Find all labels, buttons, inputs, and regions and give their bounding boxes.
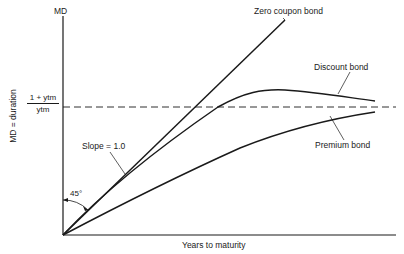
slope-leader: [110, 152, 125, 174]
angle-annotation: 45°: [70, 189, 82, 199]
asymptote-denominator: ytm: [27, 104, 59, 114]
discount-leader: [338, 72, 350, 94]
discount-bond-curve: [63, 90, 375, 235]
zero-coupon-leader: [283, 18, 285, 20]
slope-annotation: Slope = 1.0: [82, 141, 125, 151]
arc-arrowhead-right: [83, 206, 88, 211]
asymptote-fraction-label: 1 + ytm ytm: [27, 93, 59, 114]
duration-vs-maturity-diagram: MD MD = duration 1 + ytm ytm Years to ma…: [0, 0, 404, 254]
y-axis-top-label: MD: [54, 6, 67, 16]
arc-arrowhead-left: [63, 198, 68, 202]
premium-bond-curve: [63, 112, 375, 235]
asymptote-numerator: 1 + ytm: [27, 93, 59, 104]
premium-bond-label: Premium bond: [315, 140, 370, 150]
zero-coupon-bond-label: Zero coupon bond: [254, 6, 323, 16]
discount-bond-label: Discount bond: [314, 62, 368, 72]
y-axis-label: MD = duration: [8, 81, 18, 151]
x-axis-label: Years to maturity: [182, 240, 245, 250]
diagram-canvas: [0, 0, 404, 254]
